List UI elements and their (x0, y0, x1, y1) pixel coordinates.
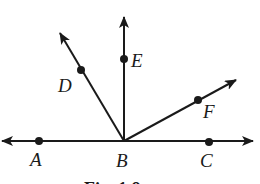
point-c (205, 138, 213, 146)
point-e (120, 55, 128, 63)
geometry-diagram: A B C D E F Fig. 1.8 (0, 0, 260, 184)
label-c: C (200, 150, 213, 171)
point-d (77, 66, 85, 74)
label-f: F (202, 101, 215, 122)
label-d: D (57, 75, 72, 96)
figure-caption: Fig. 1.8 (84, 179, 141, 184)
point-f (194, 96, 202, 104)
label-a: A (28, 149, 42, 170)
point-a (35, 137, 43, 145)
label-e: E (130, 50, 143, 71)
ray-bf (124, 80, 236, 141)
label-b: B (116, 150, 128, 171)
